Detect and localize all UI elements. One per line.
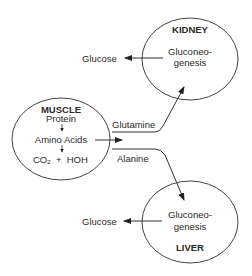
alanine-label: Alanine [117, 153, 149, 164]
kidney-glucose-label: Glucose [82, 53, 117, 64]
muscle-amino-acids: Amino Acids [26, 134, 96, 145]
liver-process-line2: genesis [160, 221, 220, 232]
muscle-products: CO2 + HOH [33, 154, 88, 168]
plus-sign: + [56, 154, 62, 165]
liver-process-line1: Gluconeo- [160, 209, 220, 220]
liver-title: LIVER [165, 242, 215, 253]
kidney-process-line2: genesis [160, 57, 220, 68]
kidney-title: KIDNEY [165, 24, 215, 35]
liver-glucose-label: Glucose [82, 216, 117, 227]
water-label: HOH [67, 154, 88, 165]
co2-label: CO2 [33, 154, 51, 165]
muscle-protein: Protein [31, 113, 91, 124]
kidney-process-line1: Gluconeo- [160, 46, 220, 57]
glutamine-label: Glutamine [112, 119, 155, 130]
